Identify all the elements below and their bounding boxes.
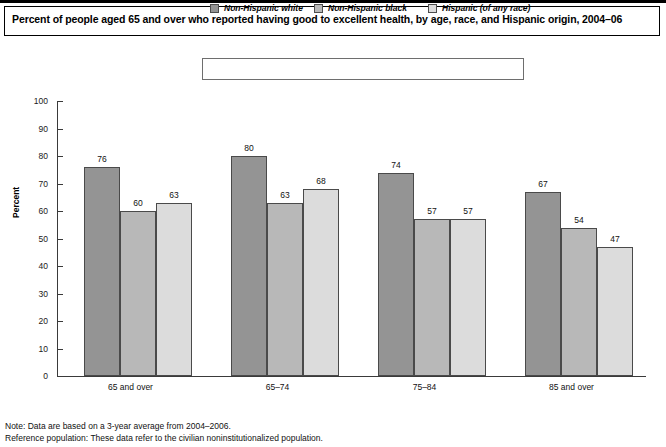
bar-2-2 <box>450 219 486 376</box>
page-title: Percent of people aged 65 and over who r… <box>12 13 652 25</box>
plot-area <box>57 101 645 376</box>
bar-value-3-0: 67 <box>525 180 561 189</box>
bar-value-0-0: 76 <box>84 155 120 164</box>
x-category-label-0: 65 and over <box>57 382 204 392</box>
bar-2-1 <box>414 219 450 376</box>
footnote-reference: Reference population: These data refer t… <box>5 433 323 445</box>
bar-1-0 <box>231 156 267 376</box>
bar-2-0 <box>378 173 414 377</box>
bar-0-0 <box>84 167 120 376</box>
legend-label-2: Hispanic (of any race) <box>442 4 530 13</box>
bar-value-2-0: 74 <box>378 161 414 170</box>
chart-legend <box>202 58 524 80</box>
bar-0-1 <box>120 211 156 376</box>
bar-value-1-1: 63 <box>267 191 303 200</box>
bar-0-2 <box>156 203 192 376</box>
x-category-label-3: 85 and over <box>498 382 645 392</box>
bar-3-1 <box>561 228 597 377</box>
bar-value-0-1: 60 <box>120 199 156 208</box>
bar-3-2 <box>597 247 633 376</box>
legend-swatch-hispanic <box>428 4 437 13</box>
legend-swatch-non-hispanic-white <box>210 4 219 13</box>
x-axis-line <box>57 376 646 377</box>
y-tick-label-0: 0 <box>8 372 48 381</box>
bar-value-2-1: 57 <box>414 207 450 216</box>
y-tick-label-70: 70 <box>8 180 48 189</box>
legend-item-1: Non-Hispanic black <box>314 4 407 13</box>
legend-item-0: Non-Hispanic white <box>210 4 303 13</box>
y-tick-label-60: 60 <box>8 207 48 216</box>
footnote-note: Note: Data are based on a 3-year average… <box>5 421 323 433</box>
bar-1-2 <box>303 189 339 376</box>
bar-3-0 <box>525 192 561 376</box>
bar-value-1-2: 68 <box>303 177 339 186</box>
y-tick-label-50: 50 <box>8 235 48 244</box>
y-tick-label-90: 90 <box>8 125 48 134</box>
bar-value-0-2: 63 <box>156 191 192 200</box>
x-category-label-1: 65–74 <box>204 382 351 392</box>
bar-value-1-0: 80 <box>231 144 267 153</box>
bar-value-3-2: 47 <box>597 235 633 244</box>
bar-value-2-2: 57 <box>450 207 486 216</box>
legend-item-2: Hispanic (of any race) <box>428 4 530 13</box>
y-tick-label-30: 30 <box>8 290 48 299</box>
y-tick-label-100: 100 <box>8 97 48 106</box>
legend-label-1: Non-Hispanic black <box>328 4 407 13</box>
x-category-label-2: 75–84 <box>351 382 498 392</box>
y-tick-label-20: 20 <box>8 317 48 326</box>
legend-swatch-non-hispanic-black <box>314 4 323 13</box>
y-tick-label-40: 40 <box>8 262 48 271</box>
y-tick-label-80: 80 <box>8 152 48 161</box>
y-tick-0 <box>58 376 63 377</box>
bar-value-3-1: 54 <box>561 216 597 225</box>
footnotes: Note: Data are based on a 3-year average… <box>5 421 323 444</box>
y-tick-label-10: 10 <box>8 345 48 354</box>
legend-label-0: Non-Hispanic white <box>224 4 303 13</box>
bar-1-1 <box>267 203 303 376</box>
